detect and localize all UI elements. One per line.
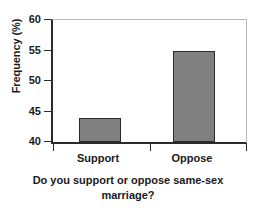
bar-oppose bbox=[173, 51, 215, 143]
x-tick-start bbox=[53, 143, 54, 151]
y-tick-label-55: 55 bbox=[29, 43, 41, 58]
x-tick-end bbox=[246, 143, 247, 151]
y-tick-60: 60 bbox=[44, 19, 52, 20]
bar-support bbox=[79, 118, 121, 142]
x-category-label-oppose: Oppose bbox=[137, 152, 247, 165]
y-tick-55: 55 bbox=[44, 50, 52, 51]
x-tick-middle bbox=[150, 143, 151, 151]
y-tick-label-40: 40 bbox=[29, 134, 41, 149]
x-axis-title: Do you support or oppose same-sex marria… bbox=[12, 173, 244, 203]
y-tick-45: 45 bbox=[44, 111, 52, 112]
y-tick-50: 50 bbox=[44, 80, 52, 81]
y-tick-40: 40 bbox=[44, 141, 52, 142]
y-tick-label-50: 50 bbox=[29, 73, 41, 88]
y-tick-label-45: 45 bbox=[29, 104, 41, 119]
x-axis-title-line-1: Do you support or oppose same-sex bbox=[12, 173, 244, 188]
y-axis-title: Frequency (%) bbox=[8, 0, 24, 116]
plot-area: 40 45 50 55 60 bbox=[51, 19, 247, 144]
x-axis-title-line-2: marriage? bbox=[12, 188, 244, 203]
y-tick-label-60: 60 bbox=[29, 12, 41, 27]
bar-chart-figure: Frequency (%) 40 45 50 55 60 Support Opp… bbox=[0, 0, 254, 210]
